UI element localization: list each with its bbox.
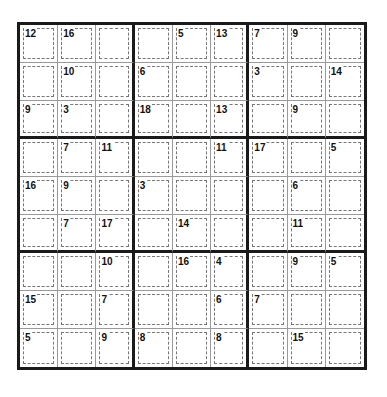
grid-cell[interactable]: 13	[211, 25, 249, 63]
grid-cell[interactable]	[288, 63, 326, 101]
grid-cell[interactable]	[326, 177, 364, 215]
grid-cell[interactable]: 9	[20, 101, 58, 139]
cage-sum: 5	[177, 28, 185, 39]
grid-cell[interactable]: 5	[326, 253, 364, 291]
grid-cell[interactable]: 15	[20, 291, 58, 329]
grid-cell[interactable]	[58, 291, 96, 329]
grid-cell[interactable]: 5	[20, 329, 58, 367]
grid-cell[interactable]	[135, 253, 173, 291]
grid-cell[interactable]: 7	[96, 291, 134, 329]
grid-cell[interactable]: 16	[58, 25, 96, 63]
cage-outline	[329, 332, 361, 364]
grid-cell[interactable]	[326, 291, 364, 329]
grid-cell[interactable]: 11	[211, 139, 249, 177]
grid-cell[interactable]	[173, 101, 211, 139]
grid-cell[interactable]	[326, 101, 364, 139]
grid-cell[interactable]: 7	[58, 215, 96, 253]
grid-cell[interactable]	[135, 139, 173, 177]
cage-outline	[138, 218, 169, 247]
grid-cell[interactable]	[173, 177, 211, 215]
cage-outline	[61, 256, 92, 287]
grid-cell[interactable]: 14	[326, 63, 364, 101]
grid-cell[interactable]: 10	[58, 63, 96, 101]
cage-outline	[138, 256, 169, 287]
grid-cell[interactable]: 7	[249, 291, 287, 329]
grid-cell[interactable]	[20, 253, 58, 291]
grid-cell[interactable]: 9	[96, 329, 134, 367]
cage-sum: 15	[292, 332, 305, 343]
grid-cell[interactable]: 9	[288, 25, 326, 63]
grid-cell[interactable]	[288, 139, 326, 177]
cage-outline	[176, 66, 207, 97]
cage-outline	[252, 218, 283, 247]
grid-cell[interactable]: 10	[96, 253, 134, 291]
grid-cell[interactable]	[20, 139, 58, 177]
grid-cell[interactable]: 4	[211, 253, 249, 291]
grid-cell[interactable]: 15	[288, 329, 326, 367]
grid-cell[interactable]: 12	[20, 25, 58, 63]
grid-cell[interactable]: 13	[211, 101, 249, 139]
grid-cell[interactable]	[96, 63, 134, 101]
grid-cell[interactable]	[326, 25, 364, 63]
grid-cell[interactable]	[249, 215, 287, 253]
grid-cell[interactable]: 6	[288, 177, 326, 215]
grid-cell[interactable]: 5	[173, 25, 211, 63]
grid-cell[interactable]: 9	[58, 177, 96, 215]
grid-cell[interactable]	[249, 177, 287, 215]
grid-cell[interactable]	[173, 63, 211, 101]
grid-cell[interactable]: 8	[135, 329, 173, 367]
grid-cell[interactable]: 14	[173, 215, 211, 253]
cage-sum: 17	[253, 142, 266, 153]
grid-cell[interactable]: 11	[96, 139, 134, 177]
grid-cell[interactable]: 3	[135, 177, 173, 215]
grid-cell[interactable]: 17	[96, 215, 134, 253]
grid-cell[interactable]: 7	[249, 25, 287, 63]
grid-cell[interactable]: 16	[20, 177, 58, 215]
grid-cell[interactable]	[58, 253, 96, 291]
grid-cell[interactable]	[173, 329, 211, 367]
grid-cell[interactable]: 18	[135, 101, 173, 139]
grid-cell[interactable]	[135, 215, 173, 253]
cage-outline	[214, 180, 243, 211]
grid-cell[interactable]	[211, 177, 249, 215]
grid-cell[interactable]	[326, 329, 364, 367]
cage-sum: 5	[330, 256, 338, 267]
grid-cell[interactable]	[20, 215, 58, 253]
grid-cell[interactable]: 3	[58, 101, 96, 139]
cage-sum: 11	[292, 218, 305, 229]
grid-cell[interactable]	[96, 101, 134, 139]
grid-cell[interactable]	[173, 139, 211, 177]
cage-outline	[214, 218, 243, 247]
grid-cell[interactable]	[288, 291, 326, 329]
grid-cell[interactable]	[249, 329, 287, 367]
grid-cell[interactable]	[135, 25, 173, 63]
grid-cell[interactable]	[173, 291, 211, 329]
grid-cell[interactable]	[249, 253, 287, 291]
grid-cell[interactable]: 6	[135, 63, 173, 101]
grid-cell[interactable]	[211, 63, 249, 101]
cage-outline	[138, 294, 169, 325]
cage-outline	[99, 104, 128, 133]
cage-outline	[252, 180, 283, 211]
grid-cell[interactable]: 17	[249, 139, 287, 177]
grid-cell[interactable]: 7	[58, 139, 96, 177]
grid-cell[interactable]: 5	[326, 139, 364, 177]
grid-cell[interactable]	[135, 291, 173, 329]
grid-cell[interactable]	[96, 25, 134, 63]
grid-cell[interactable]	[96, 177, 134, 215]
grid-cell[interactable]: 6	[211, 291, 249, 329]
grid-cell[interactable]: 11	[288, 215, 326, 253]
grid-cell[interactable]	[211, 215, 249, 253]
grid-cell[interactable]	[326, 215, 364, 253]
grid-cell[interactable]: 8	[211, 329, 249, 367]
grid-cell[interactable]: 9	[288, 253, 326, 291]
grid-cell[interactable]	[249, 101, 287, 139]
grid-cell[interactable]: 3	[249, 63, 287, 101]
cage-outline	[291, 142, 322, 173]
cage-outline	[138, 142, 169, 173]
cage-outline	[291, 66, 322, 97]
grid-cell[interactable]	[20, 63, 58, 101]
grid-cell[interactable]: 9	[288, 101, 326, 139]
grid-cell[interactable]	[58, 329, 96, 367]
grid-cell[interactable]: 16	[173, 253, 211, 291]
